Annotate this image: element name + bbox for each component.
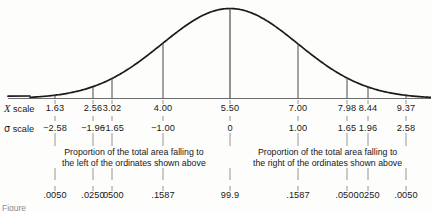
x-scale-word: scale — [13, 104, 34, 114]
proportion-value: .1587 — [151, 191, 175, 200]
sigma-scale-value: −1.00 — [151, 124, 175, 133]
normal-distribution-figure: X scale σ scale 1.632.563.024.005.507.00… — [0, 0, 431, 211]
proportion-value: .0500 — [335, 191, 359, 200]
proportion-value: .1587 — [286, 191, 310, 200]
sigma-scale-value: −1.65 — [100, 124, 124, 133]
x-scale-row-label: X scale — [4, 104, 34, 115]
sigma-scale-value: 1.65 — [338, 124, 356, 133]
right-caption: Proportion of the total area falling to … — [253, 147, 402, 169]
x-scale-value: 7.00 — [289, 104, 307, 113]
sigma-symbol: σ — [4, 123, 10, 134]
sigma-scale-value: 0 — [227, 124, 232, 133]
leader-ticks-group — [55, 100, 406, 191]
sigma-scale-word: scale — [13, 124, 34, 134]
ordinate-lines-group — [55, 9, 406, 99]
proportion-value: .0050 — [43, 191, 67, 200]
sigma-scale-value: −2.58 — [43, 124, 67, 133]
sigma-scale-row-label: σ scale — [4, 124, 34, 134]
right-caption-line-2: the right of the ordinates shown above — [253, 158, 402, 169]
x-scale-value: 8.44 — [359, 104, 377, 113]
x-scale-value: 9.37 — [397, 104, 415, 113]
proportion-value: .0500 — [100, 191, 124, 200]
sigma-scale-value: 1.00 — [289, 124, 307, 133]
proportion-value: .0050 — [394, 191, 418, 200]
proportion-value: .0250 — [356, 191, 380, 200]
x-scale-value: 3.02 — [103, 104, 121, 113]
right-caption-line-1: Proportion of the total area falling to — [253, 147, 402, 158]
left-caption-line-2: the left of the ordinates shown above — [62, 158, 206, 169]
sigma-scale-value: 2.58 — [397, 124, 415, 133]
x-scale-value: 1.63 — [46, 104, 64, 113]
x-scale-value: 2.56 — [84, 104, 102, 113]
left-caption-line-1: Proportion of the total area falling to — [62, 147, 206, 158]
figure-note: Figure — [2, 203, 26, 211]
x-scale-value: 7.98 — [338, 104, 356, 113]
proportion-value: 99.9 — [221, 191, 239, 200]
x-scale-value: 5.50 — [221, 104, 239, 113]
x-scale-value: 4.00 — [154, 104, 172, 113]
left-caption: Proportion of the total area falling to … — [62, 147, 206, 169]
sigma-scale-value: 1.96 — [359, 124, 377, 133]
x-symbol: X — [4, 103, 10, 114]
